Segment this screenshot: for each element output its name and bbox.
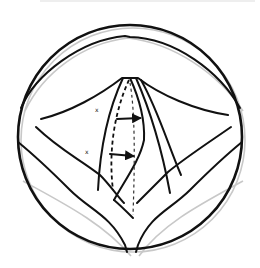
medialization-arrow-lower bbox=[110, 154, 133, 156]
left-false-fold bbox=[41, 78, 228, 119]
medialization-arrow-upper bbox=[117, 118, 140, 119]
larynx-diagram: x x bbox=[0, 0, 260, 268]
right-vocal-fold-outer bbox=[141, 80, 181, 175]
medialized-line bbox=[130, 83, 134, 215]
left-vocal-fold-edge bbox=[114, 78, 144, 200]
left-vocal-fold bbox=[98, 78, 123, 190]
marker-x-upper: x bbox=[95, 106, 99, 113]
marker-x-lower: x bbox=[85, 148, 89, 155]
incision-line bbox=[111, 80, 129, 190]
